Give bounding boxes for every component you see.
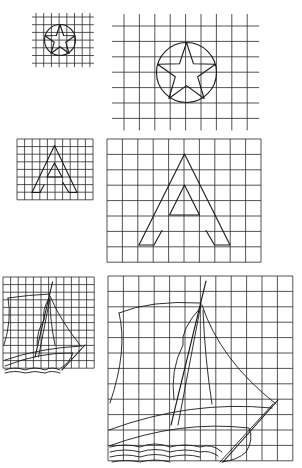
sailing-ship-large <box>109 281 278 462</box>
grid-letter-a-small <box>17 139 93 200</box>
grid-letter-a-large <box>107 139 261 262</box>
grid-star-small <box>32 13 94 67</box>
grid-star-large <box>112 14 259 130</box>
sailing-ship-small <box>4 282 85 373</box>
grid-enlargement-diagram <box>0 0 302 468</box>
grid-lines <box>3 13 293 461</box>
